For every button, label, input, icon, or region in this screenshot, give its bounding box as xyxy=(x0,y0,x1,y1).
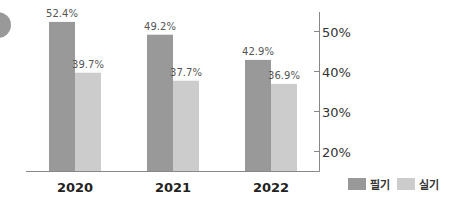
y-tick-label: 50% xyxy=(322,25,351,40)
bar-2020-practical xyxy=(75,73,101,172)
bar-2021-written xyxy=(147,35,173,172)
data-label: 49.2% xyxy=(144,21,176,32)
legend-label-written: 필기 xyxy=(370,178,390,192)
data-label: 39.7% xyxy=(72,59,104,70)
bar-2021-practical xyxy=(173,81,199,172)
y-tick-label: 20% xyxy=(322,145,351,160)
x-tick-label: 2021 xyxy=(155,180,191,195)
x-tick-label: 2020 xyxy=(57,180,93,195)
y-tick-label: 40% xyxy=(322,65,351,80)
bar-chart: 52.4%39.7%49.2%37.7%42.9%36.9% 20%30%40%… xyxy=(0,0,454,209)
legend-swatch-practical xyxy=(397,178,415,190)
data-label: 37.7% xyxy=(170,67,202,78)
data-label: 52.4% xyxy=(46,8,78,19)
bar-2022-written xyxy=(245,60,271,172)
legend-label-practical: 실기 xyxy=(419,178,439,192)
y-tick-label: 30% xyxy=(322,105,351,120)
bar-2020-written xyxy=(49,22,75,172)
x-tick-label: 2022 xyxy=(253,180,289,195)
bar-2022-practical xyxy=(271,84,297,172)
data-label: 42.9% xyxy=(242,46,274,57)
decorative-circle xyxy=(0,12,11,38)
legend-swatch-written xyxy=(348,178,366,190)
data-label: 36.9% xyxy=(268,70,300,81)
